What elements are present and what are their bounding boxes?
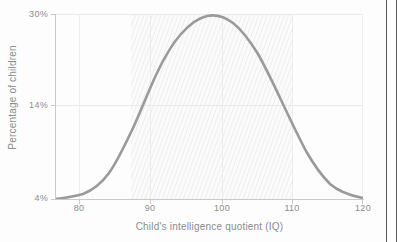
x-axis-title: Child's intelligence quotient (IQ) bbox=[55, 221, 364, 232]
y-tick-30 bbox=[51, 14, 55, 15]
y-axis-title: Percentage of children bbox=[7, 18, 18, 178]
right-margin-gap bbox=[387, 0, 396, 242]
y-tick-4 bbox=[51, 199, 55, 200]
right-border-line-inner bbox=[386, 0, 387, 242]
y-tick-14 bbox=[51, 105, 55, 106]
y-axis-line bbox=[55, 14, 56, 200]
x-tick-label-120: 120 bbox=[343, 203, 383, 213]
chart-canvas: 30% 14% 4% Percentage of children bbox=[0, 0, 397, 242]
distribution-curve bbox=[55, 14, 363, 199]
plot-area bbox=[55, 14, 363, 199]
x-tick-label-100: 100 bbox=[202, 203, 242, 213]
x-tick-label-110: 110 bbox=[272, 203, 312, 213]
x-axis-line bbox=[55, 199, 364, 200]
x-tick-label-80: 80 bbox=[59, 203, 99, 213]
x-tick-label-90: 90 bbox=[130, 203, 170, 213]
y-tick-label-4: 4% bbox=[8, 193, 48, 203]
